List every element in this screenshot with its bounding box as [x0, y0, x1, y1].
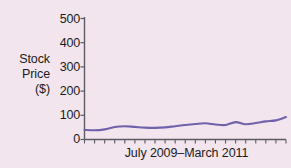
data-series-line [85, 117, 287, 130]
axis-lines [85, 17, 287, 140]
plot-area [0, 0, 291, 168]
stock-price-line-chart: Stock Price ($) 500 400 300 200 100 0 Ju… [0, 0, 291, 168]
x-axis-ticks [85, 140, 287, 144]
x-axis-title: July 2009–March 2011 [84, 146, 289, 160]
